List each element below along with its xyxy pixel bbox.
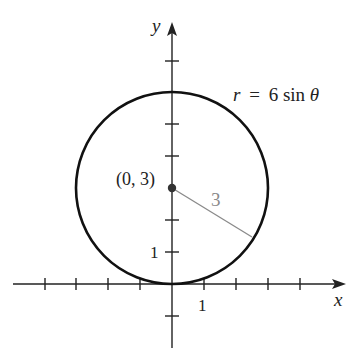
- center-label: (0, 3): [116, 169, 155, 190]
- equation-r: r: [233, 84, 241, 105]
- equation-theta: θ: [310, 84, 319, 105]
- x-tick-label-1: 1: [198, 296, 207, 315]
- center-point: [168, 184, 176, 192]
- x-axis-label: x: [333, 289, 343, 310]
- equation-equals: =: [249, 84, 260, 105]
- equation-rhs: 6 sin: [269, 84, 310, 105]
- equation-label: r = 6 sin θ: [233, 84, 319, 105]
- svg-text:r = 6 sin θ: r = 6 sin θ: [233, 84, 319, 105]
- y-axis-label: y: [150, 15, 161, 36]
- polar-graph: y x 1 1 (0, 3) 3 r = 6 sin θ: [0, 0, 362, 359]
- y-tick-label-1: 1: [150, 243, 159, 262]
- radius-label: 3: [211, 189, 221, 210]
